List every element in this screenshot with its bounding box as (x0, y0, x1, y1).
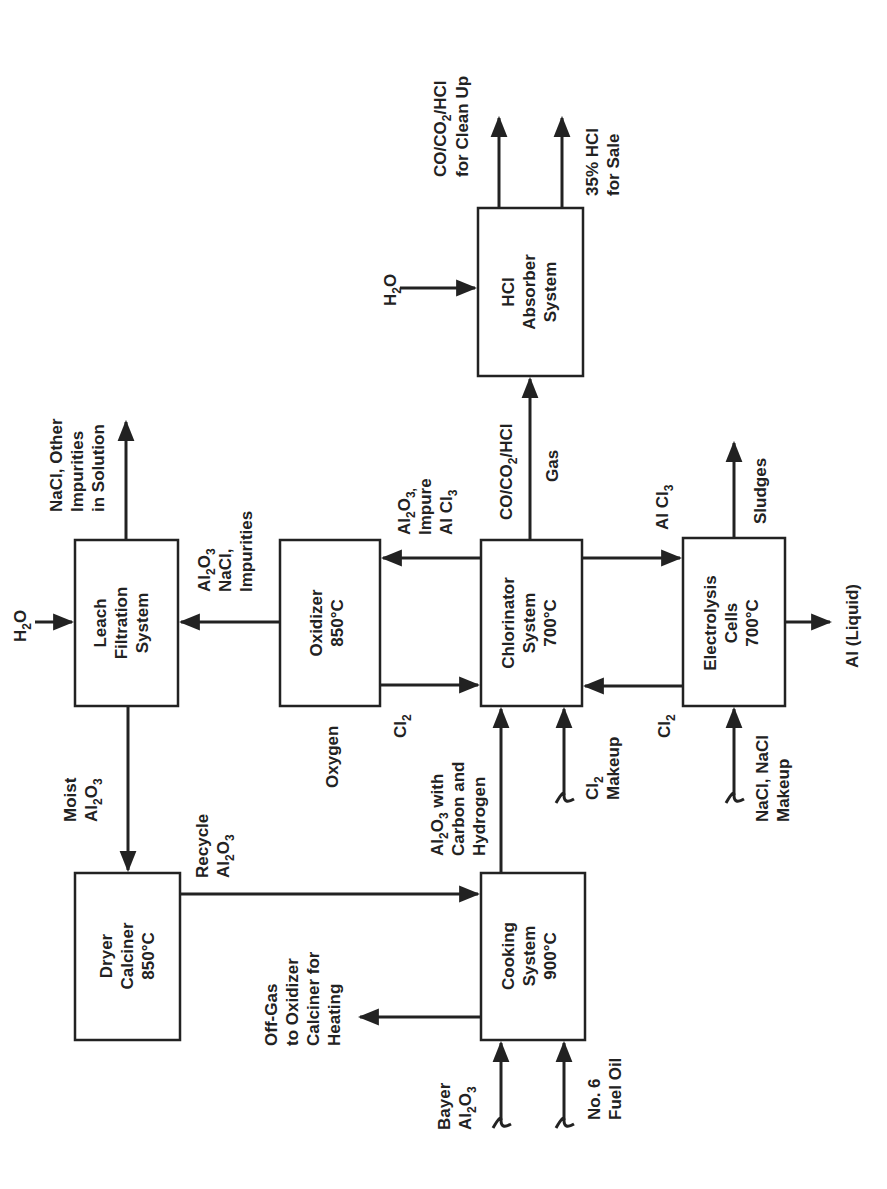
svg-text:Impurities: Impurities (68, 431, 87, 512)
svg-text:Makeup: Makeup (774, 759, 793, 822)
svg-text:Cl2: Cl2 (583, 776, 606, 800)
svg-text:Al2O3: Al2O3 (214, 834, 237, 878)
svg-text:No. 6: No. 6 (585, 1078, 604, 1120)
svg-text:CO/CO2/HCl: CO/CO2/HCl (431, 81, 454, 177)
svg-text:850°C: 850°C (328, 599, 347, 646)
moist-al2o3-label: Moist Al2O3 (61, 777, 105, 822)
svg-text:in Solution: in Solution (89, 424, 108, 512)
svg-text:Fuel Oil: Fuel Oil (606, 1058, 625, 1120)
svg-text:Al2O3: Al2O3 (456, 1086, 479, 1130)
process-flow-diagram: Leach Filtration System Oxidizer 850°C C… (0, 0, 887, 1189)
hcl-sale-label: 35% HCl for Sale (583, 128, 623, 196)
svg-text:to Oxidizer: to Oxidizer (283, 958, 302, 1046)
svg-text:for Sale: for Sale (604, 134, 623, 196)
svg-text:700°C: 700°C (541, 599, 560, 646)
svg-text:Carbon and: Carbon and (449, 762, 468, 856)
cl2-electrolysis-label: Cl2 (655, 714, 678, 738)
svg-text:Off-Gas: Off-Gas (262, 984, 281, 1046)
svg-text:Al2O3,: Al2O3, (395, 488, 418, 535)
svg-text:Hydrogen: Hydrogen (470, 777, 489, 856)
svg-text:Al2O3 with: Al2O3 with (428, 774, 451, 856)
recycle-al2o3-label: Recycle Al2O3 (193, 814, 237, 878)
fuel-oil-label: No. 6 Fuel Oil (585, 1058, 625, 1120)
svg-text:850°C: 850°C (139, 932, 158, 979)
svg-text:Al2O3: Al2O3 (82, 778, 105, 822)
svg-text:NaCl, Other: NaCl, Other (47, 418, 66, 512)
svg-text:Impurities: Impurities (237, 511, 256, 592)
cleanup-output-label: CO/CO2/HCl for Clean Up (431, 76, 472, 177)
svg-text:Al2O3: Al2O3 (195, 548, 218, 592)
svg-text:Recycle: Recycle (193, 814, 212, 878)
svg-text:for Clean Up: for Clean Up (453, 76, 472, 177)
alcl3-label: Al Cl3 (653, 484, 676, 530)
svg-text:System: System (520, 926, 539, 986)
svg-text:Chlorinator: Chlorinator (499, 577, 518, 669)
svg-text:900°C: 900°C (541, 932, 560, 979)
sludges-label: Sludges (751, 458, 770, 524)
cl2-makeup-label: Cl2 Makeup (583, 737, 623, 800)
svg-text:Absorber: Absorber (520, 254, 539, 330)
svg-text:700°C: 700°C (743, 599, 762, 646)
nacl-makeup-squiggle-icon (726, 793, 744, 803)
svg-text:Dryer: Dryer (97, 933, 116, 978)
svg-text:Gas: Gas (543, 450, 562, 482)
h2o-leach-label: H2O (11, 610, 34, 642)
svg-text:Filtration: Filtration (112, 587, 131, 660)
svg-text:Heating: Heating (325, 984, 344, 1046)
svg-text:CO/CO2/HCl: CO/CO2/HCl (497, 424, 520, 520)
svg-text:Bayer: Bayer (435, 1082, 454, 1130)
svg-text:NaCl, NaCl: NaCl, NaCl (753, 735, 772, 822)
svg-text:Calciner: Calciner (118, 922, 137, 989)
svg-text:Al Cl3: Al Cl3 (437, 489, 460, 535)
svg-text:HCl: HCl (499, 277, 518, 306)
svg-text:Calciner for: Calciner for (304, 951, 323, 1046)
svg-text:Impure: Impure (416, 478, 435, 535)
svg-text:System: System (520, 593, 539, 653)
al-liquid-label: Al (Liquid) (843, 584, 862, 668)
offgas-label: Off-Gas to Oxidizer Calciner for Heating (262, 951, 344, 1046)
fuel-oil-source-squiggle-icon (556, 1118, 574, 1128)
svg-text:35% HCl: 35% HCl (583, 128, 602, 196)
cl2-makeup-squiggle-icon (556, 793, 574, 803)
bayer-al2o3-label: Bayer Al2O3 (435, 1082, 479, 1130)
al2o3-carbon-hydrogen-label: Al2O3 with Carbon and Hydrogen (428, 762, 489, 856)
leach-output-label: NaCl, Other Impurities in Solution (47, 418, 108, 512)
h2o-absorber-label: H2O (381, 274, 404, 306)
svg-text:System: System (133, 593, 152, 653)
al2o3-impure-alcl3-label: Al2O3, Impure Al Cl3 (395, 478, 460, 535)
svg-text:System: System (541, 262, 560, 322)
svg-text:Leach: Leach (91, 598, 110, 647)
cl2-oxidizer-label: Cl2 (391, 714, 414, 738)
svg-text:Electrolysis: Electrolysis (701, 575, 720, 670)
svg-text:Oxidizer: Oxidizer (307, 589, 326, 656)
oxidizer-to-leach-label: Al2O3 NaCl, Impurities (195, 511, 256, 592)
svg-text:NaCl,: NaCl, (216, 549, 235, 592)
svg-text:Moist: Moist (61, 777, 80, 822)
bayer-source-squiggle-icon (493, 1118, 511, 1128)
svg-text:Cooking: Cooking (499, 922, 518, 990)
oxygen-label: Oxygen (323, 726, 342, 788)
svg-text:Cells: Cells (722, 603, 741, 644)
nacl-makeup-label: NaCl, NaCl Makeup (753, 735, 793, 822)
svg-text:Makeup: Makeup (604, 737, 623, 800)
